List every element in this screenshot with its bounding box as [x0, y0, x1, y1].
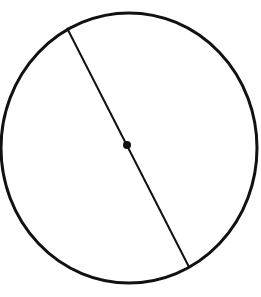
diagram-canvas — [0, 0, 261, 297]
center-point — [123, 141, 131, 149]
circle-diagram — [0, 0, 261, 297]
